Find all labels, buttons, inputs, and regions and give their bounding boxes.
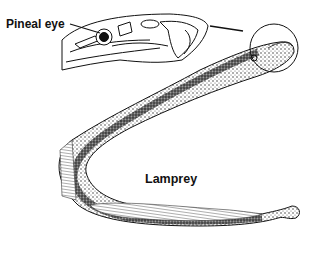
magnification-connector	[210, 26, 243, 31]
pineal-eye-label: Pineal eye	[6, 17, 65, 31]
head-detail-inset	[62, 14, 208, 70]
lamprey-figure: Pineal eye Lamprey	[0, 0, 318, 279]
lamprey-label: Lamprey	[145, 172, 197, 186]
lamprey-illustration	[0, 0, 318, 279]
